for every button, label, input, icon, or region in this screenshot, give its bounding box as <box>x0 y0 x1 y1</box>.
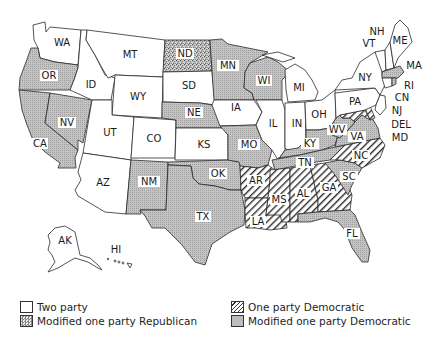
label-me: ME <box>393 35 408 46</box>
label-in: IN <box>292 118 302 129</box>
legend-swatch-modified-democratic <box>231 315 244 327</box>
legend-label: Modified one party Republican <box>37 315 197 327</box>
legend-item-two-party: Two party <box>20 300 88 314</box>
label-va: VA <box>350 131 363 142</box>
label-id: ID <box>86 79 97 90</box>
label-sc: SC <box>342 171 355 182</box>
label-nv: NV <box>60 117 74 128</box>
label-del: DEL <box>391 119 411 130</box>
label-il: IL <box>269 118 278 129</box>
legend-item-modified-democratic: Modified one party Democratic <box>231 314 411 328</box>
label-ri: RI <box>404 80 414 91</box>
label-sd: SD <box>182 80 196 91</box>
legend-swatch-modified-republican <box>20 315 33 327</box>
legend-label: Two party <box>37 301 88 313</box>
label-oh: OH <box>311 109 326 120</box>
label-ut: UT <box>103 127 117 138</box>
label-ia: IA <box>231 102 241 113</box>
legend-label: Modified one party Democratic <box>248 315 411 327</box>
label-nc: NC <box>354 150 368 161</box>
label-ms: MS <box>272 194 287 205</box>
state-hi[interactable] <box>107 258 132 268</box>
label-ny: NY <box>358 72 372 83</box>
label-wa: WA <box>54 37 70 48</box>
label-fl: FL <box>346 228 358 239</box>
label-tn: TN <box>297 157 312 168</box>
label-mn: MN <box>220 60 236 71</box>
label-wy: WY <box>130 91 147 102</box>
label-nh: NH <box>370 26 385 37</box>
label-ks: KS <box>198 139 211 150</box>
label-nj: NJ <box>392 105 402 116</box>
legend-swatch-one-party-democratic <box>231 301 244 313</box>
label-co: CO <box>147 133 162 144</box>
label-ma: MA <box>406 60 422 71</box>
map-legend: Two party Modified one party Republican … <box>0 300 431 340</box>
label-vt: VT <box>363 38 377 49</box>
label-mi: MI <box>293 82 305 93</box>
label-ca: CA <box>33 138 47 149</box>
label-hi: HI <box>111 244 121 255</box>
label-ok: OK <box>211 168 226 179</box>
state-ak[interactable] <box>48 226 102 272</box>
legend-swatch-two-party <box>20 301 33 313</box>
state-ri[interactable] <box>392 78 396 86</box>
label-nm: NM <box>141 176 157 187</box>
label-la: LA <box>252 216 265 227</box>
label-cn: CN <box>395 92 409 103</box>
label-ne: NE <box>187 107 201 118</box>
label-tx: TX <box>196 211 210 222</box>
label-al: AL <box>297 188 310 199</box>
label-pa: PA <box>349 96 361 107</box>
label-az: AZ <box>96 177 110 188</box>
us-party-map: WA OR CA NV ID MT WY UT CO AZ NM ND SD N… <box>0 0 431 290</box>
label-md: MD <box>392 132 409 143</box>
label-ak: AK <box>58 235 72 246</box>
label-wv: WV <box>329 124 346 135</box>
label-or: OR <box>42 70 57 81</box>
label-nd: ND <box>177 48 192 59</box>
legend-label: One party Democratic <box>248 301 364 313</box>
label-mo: MO <box>241 139 258 150</box>
label-ky: KY <box>304 138 317 149</box>
label-ga: GA <box>322 182 337 193</box>
label-wi: WI <box>258 75 271 86</box>
label-mt: MT <box>123 49 139 60</box>
legend-item-modified-republican: Modified one party Republican <box>20 314 197 328</box>
label-ar: AR <box>249 175 263 186</box>
legend-item-one-party-democratic: One party Democratic <box>231 300 364 314</box>
